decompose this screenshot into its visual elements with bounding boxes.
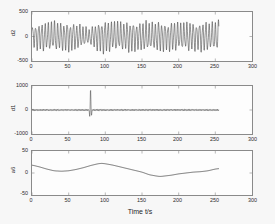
xtick-d2-300: 300	[245, 63, 260, 69]
xtick-d1-100: 100	[97, 136, 112, 142]
ytick-a6-bot: -50	[7, 190, 28, 196]
plot-area-a6	[31, 150, 253, 196]
xtick-a6-250: 250	[207, 197, 222, 203]
xtick-a6-150: 150	[134, 197, 149, 203]
xtick-a6-50: 50	[61, 197, 74, 203]
xtick-a6-0: 0	[25, 197, 37, 203]
xtick-d2-200: 200	[170, 63, 185, 69]
ytick-a6-top: 50	[10, 147, 28, 153]
ytick-a6-mid: 0	[10, 169, 28, 175]
xtick-d2-250: 250	[207, 63, 222, 69]
xtick-d1-50: 50	[61, 136, 74, 142]
ytick-d2-top: 500	[8, 8, 28, 14]
xtick-d2-100: 100	[97, 63, 112, 69]
waveform-d1	[32, 86, 252, 134]
xtick-d2-50: 50	[61, 63, 74, 69]
xtick-d1-150: 150	[134, 136, 149, 142]
waveform-a6	[32, 151, 252, 195]
ytick-d1-top: 1000	[5, 82, 28, 88]
xlabel-time: Time t/s	[85, 208, 195, 215]
ytick-d2-mid: 0	[8, 33, 28, 39]
figure-wavelet-decomposition: d2 500 0 -500 0 50 100 150 2	[0, 0, 275, 224]
xtick-a6-200: 200	[170, 197, 185, 203]
xtick-d1-250: 250	[207, 136, 222, 142]
xtick-d2-150: 150	[134, 63, 149, 69]
ytick-d1-mid: 0	[8, 106, 28, 112]
xtick-d1-300: 300	[245, 136, 260, 142]
xtick-a6-300: 300	[245, 197, 260, 203]
xtick-d1-0: 0	[25, 136, 37, 142]
xtick-d1-200: 200	[170, 136, 185, 142]
waveform-d2	[32, 12, 252, 61]
xtick-a6-100: 100	[97, 197, 112, 203]
plot-area-d2	[31, 11, 253, 62]
xtick-d2-0: 0	[25, 63, 37, 69]
plot-area-d1	[31, 85, 253, 135]
